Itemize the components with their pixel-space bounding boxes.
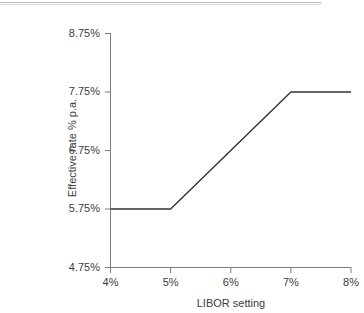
y-tick-label-4-75: 4.75% xyxy=(54,261,100,273)
x-tick-label-6: 6% xyxy=(211,276,251,288)
y-tick-marks xyxy=(105,34,111,268)
x-axis-title: LIBOR setting xyxy=(111,297,351,309)
x-tick-label-5: 5% xyxy=(151,276,191,288)
x-tick-marks xyxy=(111,268,352,274)
page-top-rule-shadow xyxy=(0,4,321,5)
line-chart: 8.75% 7.75% 6.75% 5.75% 4.75% 4% 5% 6% 7… xyxy=(40,16,361,313)
y-tick-label-8-75: 8.75% xyxy=(54,27,100,39)
y-axis-title: Effective rate % p.a. xyxy=(66,58,78,238)
x-tick-label-8: 8% xyxy=(331,276,364,288)
x-tick-label-7: 7% xyxy=(271,276,311,288)
x-tick-label-4: 4% xyxy=(91,276,131,288)
series-effective-rate xyxy=(111,92,352,209)
page-top-rule xyxy=(0,2,321,3)
